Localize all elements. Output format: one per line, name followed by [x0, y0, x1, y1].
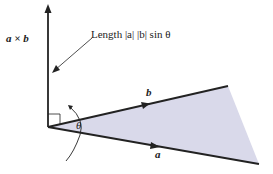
length-label: Length |a| |b| sin θ [91, 28, 170, 40]
cross-product-label: a × b [6, 32, 29, 44]
rotation-arc [66, 107, 81, 161]
diagram-graphics [0, 0, 273, 174]
theta-label: θ [76, 119, 81, 131]
cross-product-diagram: a × b Length |a| |b| sin θ b a θ [0, 0, 273, 174]
cross-arrowhead-icon [45, 4, 52, 13]
a-label: a [155, 148, 161, 160]
right-angle-marker [48, 114, 60, 124]
b-label: b [146, 86, 152, 98]
pointer-line [55, 38, 92, 70]
